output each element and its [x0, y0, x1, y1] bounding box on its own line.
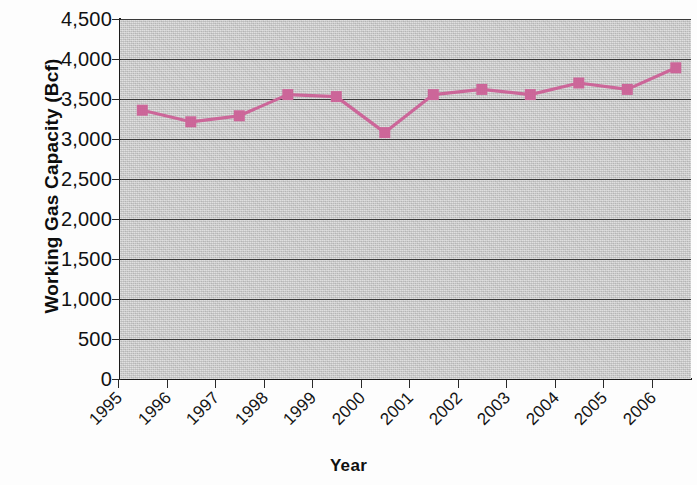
line-chart: Working Gas Capacity (Bcf) 05001,0001,50… — [0, 0, 697, 485]
y-axis-tick-label: 3,000 — [26, 129, 112, 149]
y-axis-tick-label: 1,000 — [26, 289, 112, 309]
data-point-marker — [428, 89, 439, 100]
x-axis-tick-label: 1999 — [279, 388, 320, 429]
x-axis-tick-label: 2005 — [570, 388, 611, 429]
x-axis-tick-mark — [603, 380, 604, 388]
x-axis-tick-mark — [555, 380, 556, 388]
y-axis-tick-label: 2,500 — [26, 169, 112, 189]
x-axis-tick-label: 2000 — [328, 388, 369, 429]
x-axis-tick-mark — [361, 380, 362, 388]
x-axis-tick-mark — [118, 380, 119, 388]
y-axis-tick-mark — [112, 99, 121, 100]
series-markers — [137, 62, 682, 138]
y-axis-tick-mark — [112, 139, 121, 140]
y-axis-tick-mark — [112, 379, 121, 380]
x-axis-tick-mark — [167, 380, 168, 388]
x-axis-tick-label: 2002 — [425, 388, 466, 429]
x-axis-tick-label: 1997 — [182, 388, 223, 429]
y-axis-tick-mark — [112, 259, 121, 260]
y-axis-tick-mark — [112, 219, 121, 220]
data-point-marker — [525, 89, 536, 100]
y-axis-tick-mark — [112, 339, 121, 340]
x-axis-tick-mark — [409, 380, 410, 388]
x-axis-title: Year — [0, 456, 697, 476]
x-axis-tick-label: 1996 — [134, 388, 175, 429]
x-axis-tick-label: 2001 — [376, 388, 417, 429]
data-point-marker — [331, 91, 342, 102]
x-axis-tick-label: 2004 — [522, 388, 563, 429]
y-axis-tick-mark — [112, 179, 121, 180]
x-axis-tick-label: 2003 — [473, 388, 514, 429]
data-point-marker — [185, 116, 196, 127]
x-axis-tick-mark — [652, 380, 653, 388]
x-axis-tick-label: 1998 — [231, 388, 272, 429]
x-axis-tick-mark — [264, 380, 265, 388]
y-axis-tick-mark — [112, 299, 121, 300]
x-axis-tick-mark — [458, 380, 459, 388]
y-axis-tick-label: 2,000 — [26, 209, 112, 229]
y-axis-tick-label: 4,500 — [26, 9, 112, 29]
data-point-marker — [282, 89, 293, 100]
x-axis-tick-label: 2006 — [619, 388, 660, 429]
y-axis-tick-label: 500 — [26, 329, 112, 349]
data-point-marker — [622, 84, 633, 95]
data-point-marker — [379, 127, 390, 138]
data-point-marker — [476, 84, 487, 95]
y-axis-tick-mark — [112, 19, 121, 20]
x-axis-tick-mark — [506, 380, 507, 388]
data-series-layer — [120, 19, 691, 379]
x-axis-tick-mark — [215, 380, 216, 388]
y-axis-tick-label: 0 — [26, 369, 112, 389]
data-point-marker — [137, 105, 148, 116]
y-axis-tick-label: 3,500 — [26, 89, 112, 109]
y-axis-tick-label: 1,500 — [26, 249, 112, 269]
data-point-marker — [573, 78, 584, 89]
series-line — [142, 68, 676, 133]
y-axis-tick-label: 4,000 — [26, 49, 112, 69]
y-axis-tick-mark — [112, 59, 121, 60]
data-point-marker — [670, 62, 681, 73]
data-point-marker — [234, 110, 245, 121]
x-axis-tick-mark — [312, 380, 313, 388]
